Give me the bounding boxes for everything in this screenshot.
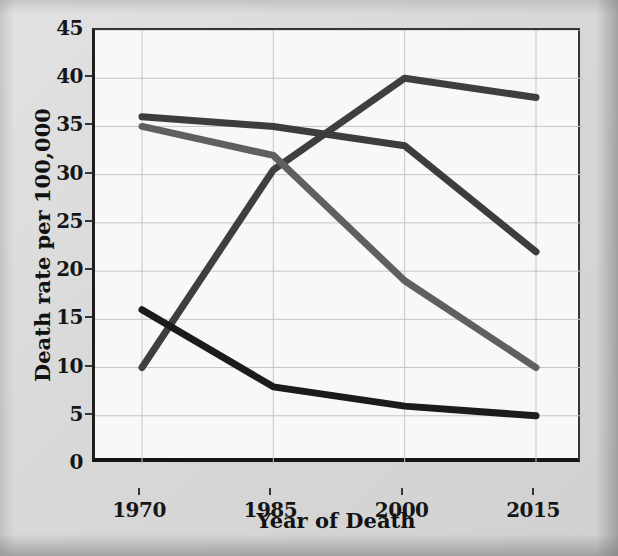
y-tick-label: 0 [70,450,83,474]
y-tick-mark [85,365,92,367]
page-edge-shadow-right [596,0,618,556]
page-edge-shadow-left [0,0,14,556]
x-axis-title: Year of Death [92,508,580,533]
y-tick-label: 45 [56,16,83,40]
y-tick-label: 10 [56,354,83,378]
x-tick-mark [532,488,534,495]
y-tick-label: 40 [56,64,83,88]
page-edge-shadow-top [0,0,618,14]
y-tick-mark [85,220,92,222]
y-tick-mark [85,316,92,318]
data-lines [95,30,583,464]
y-tick-label: 25 [56,209,83,233]
y-axis-title-wrap: Death rate per 100,000 [30,28,56,462]
x-tick-mark [138,488,140,495]
series-line-gray-declining-series [142,126,536,367]
page-edge-shadow-bottom [0,534,618,556]
y-tick-label: 30 [56,161,83,185]
y-tick-mark [85,123,92,125]
y-tick-mark [85,268,92,270]
chart-figure: Death rate per 100,000 05101520253035404… [0,0,618,556]
y-tick-label: 35 [56,112,83,136]
chart-plot-area: 0510152025303540451970198520002015 [92,28,580,488]
y-tick-mark [85,172,92,174]
y-tick-mark [85,75,92,77]
y-tick-label: 5 [70,402,83,426]
y-axis-title: Death rate per 100,000 [30,108,55,382]
y-tick-label: 15 [56,305,83,329]
x-tick-mark [401,488,403,495]
x-tick-mark [269,488,271,495]
y-tick-mark [85,413,92,415]
y-tick-label: 20 [56,257,83,281]
plot-box [92,28,580,462]
